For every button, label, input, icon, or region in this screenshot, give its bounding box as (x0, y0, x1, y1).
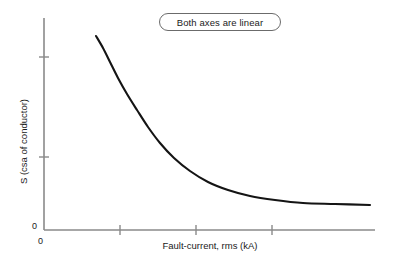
y-axis-label: S (csa of conductor) (18, 72, 29, 212)
plot-area (0, 0, 401, 271)
y-axis-origin-label: 0 (32, 221, 37, 231)
x-axis-origin-label: 0 (38, 236, 43, 246)
note-box: Both axes are linear (159, 13, 281, 31)
data-curve (96, 36, 370, 205)
chart-figure: Both axes are linear Fault-current, rms … (0, 0, 401, 271)
x-axis-label: Fault-current, rms (kA) (130, 240, 290, 251)
note-label: Both axes are linear (177, 17, 264, 28)
